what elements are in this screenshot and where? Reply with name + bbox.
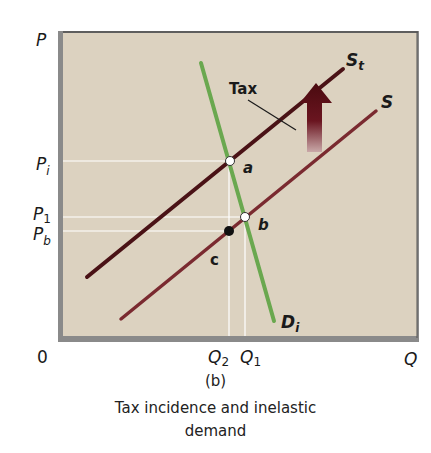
y-axis-label: P bbox=[36, 30, 47, 50]
x-tick-q1: Q1 bbox=[240, 347, 261, 369]
point-b-label: b bbox=[258, 216, 269, 234]
point-a-marker bbox=[226, 157, 235, 166]
supply-label: S bbox=[381, 92, 393, 112]
point-c-label: c bbox=[210, 251, 219, 269]
y-tick-pi: Pi bbox=[36, 154, 50, 178]
y-tick-p1: P1 bbox=[33, 204, 51, 226]
y-tick-pb: Pb bbox=[33, 224, 51, 248]
origin-label: 0 bbox=[37, 347, 48, 367]
x-axis-label: Q bbox=[404, 349, 417, 369]
point-a-label: a bbox=[243, 159, 253, 177]
caption-line-2: demand bbox=[0, 422, 431, 440]
tax-label: Tax bbox=[229, 80, 257, 98]
point-c-marker bbox=[224, 226, 234, 236]
plot-area bbox=[63, 33, 417, 336]
caption-line-1: Tax incidence and inelastic bbox=[0, 399, 431, 417]
point-b-marker bbox=[241, 213, 250, 222]
x-tick-q2: Q2 bbox=[208, 347, 229, 369]
panel-label: (b) bbox=[0, 372, 431, 390]
